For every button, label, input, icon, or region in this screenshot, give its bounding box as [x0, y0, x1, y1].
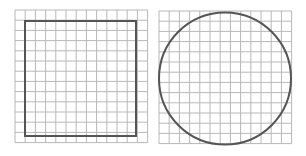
square-shape — [25, 21, 136, 136]
square-panel — [15, 10, 148, 143]
square-panel-grid — [15, 10, 148, 143]
circle-panel — [159, 11, 292, 145]
figure-canvas — [0, 0, 306, 156]
